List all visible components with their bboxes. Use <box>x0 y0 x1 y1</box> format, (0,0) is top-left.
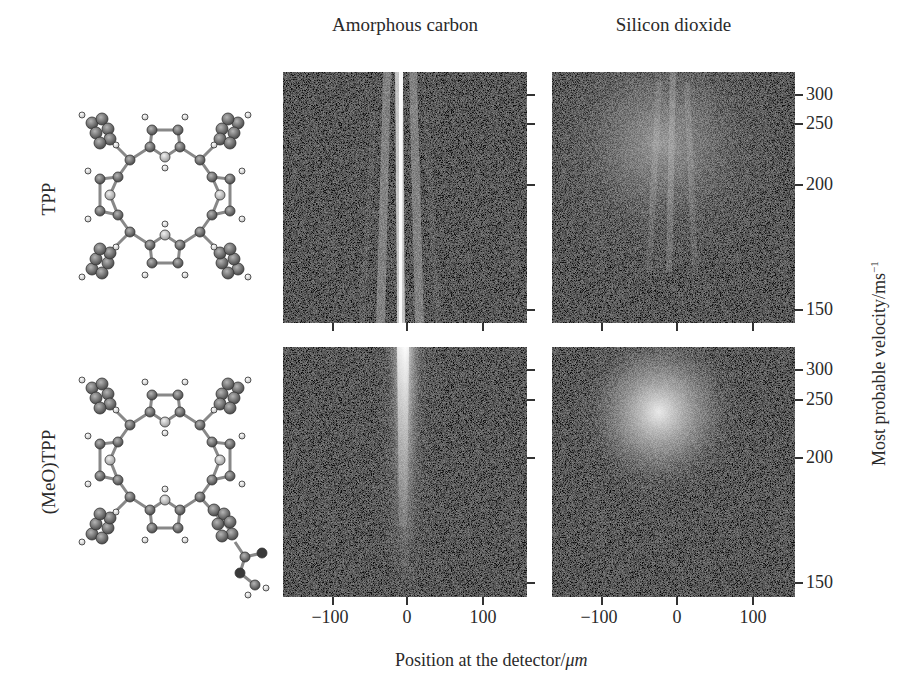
y-tick <box>795 457 803 459</box>
y-tick <box>795 582 803 584</box>
y-tick-label: 200 <box>806 447 833 468</box>
y-axis-title-text: Most probable velocity/ms <box>869 273 889 466</box>
tpp-molecule-diagram <box>70 105 255 305</box>
x-tick <box>752 597 754 605</box>
x-tick <box>676 597 678 605</box>
x-tick <box>482 323 484 331</box>
x-tick <box>406 323 408 331</box>
panel-meotpp-silicon-dioxide <box>552 347 795 597</box>
x-tick-label: 0 <box>647 607 707 628</box>
y-tick <box>795 309 803 311</box>
y-tick <box>527 309 535 311</box>
column-title-amorphous-carbon: Amorphous carbon <box>283 14 527 36</box>
x-tick <box>332 597 334 605</box>
y-tick-label: 150 <box>806 299 833 320</box>
x-tick <box>676 323 678 331</box>
y-tick <box>795 123 803 125</box>
y-tick <box>527 582 535 584</box>
x-axis-title-text: Position at the detector/ <box>395 650 565 670</box>
x-axis-unit: μm <box>565 650 587 670</box>
row-label-tpp: TPP <box>38 159 62 239</box>
x-tick <box>406 597 408 605</box>
y-tick-label: 200 <box>806 174 833 195</box>
x-tick-label: −100 <box>569 607 629 628</box>
y-tick <box>795 184 803 186</box>
y-axis-title: Most probable velocity/ms−1 <box>868 261 890 466</box>
x-tick <box>601 323 603 331</box>
y-axis-title-sup: −1 <box>868 261 880 273</box>
row-label-meo-tpp: (MeO)TPP <box>38 420 62 524</box>
y-tick-label: 300 <box>806 359 833 380</box>
y-tick <box>527 369 535 371</box>
y-tick <box>795 94 803 96</box>
x-tick <box>752 323 754 331</box>
column-title-silicon-dioxide: Silicon dioxide <box>552 14 795 36</box>
x-tick-label: 100 <box>453 607 513 628</box>
x-tick <box>601 597 603 605</box>
meo-tpp-molecule-diagram <box>70 370 270 600</box>
y-tick <box>527 457 535 459</box>
panel-tpp-amorphous-carbon <box>283 72 527 323</box>
y-tick-label: 150 <box>806 572 833 593</box>
x-axis-title: Position at the detector/μm <box>395 650 588 671</box>
y-tick <box>527 94 535 96</box>
y-tick <box>527 184 535 186</box>
panel-tpp-silicon-dioxide <box>552 72 795 323</box>
panel-meotpp-amorphous-carbon <box>283 347 527 597</box>
y-tick <box>527 123 535 125</box>
y-tick <box>795 399 803 401</box>
y-tick <box>527 399 535 401</box>
x-tick <box>332 323 334 331</box>
x-tick-label: −100 <box>300 607 360 628</box>
x-tick-label: 100 <box>723 607 783 628</box>
x-tick-label: 0 <box>377 607 437 628</box>
y-tick <box>795 369 803 371</box>
y-tick-label: 250 <box>806 113 833 134</box>
y-tick-label: 300 <box>806 84 833 105</box>
y-tick-label: 250 <box>806 389 833 410</box>
x-tick <box>482 597 484 605</box>
